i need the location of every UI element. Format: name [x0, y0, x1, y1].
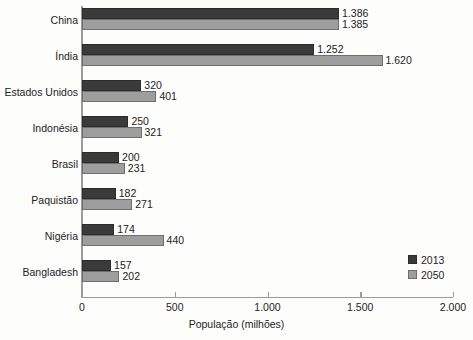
value-label-2050-nigéria: 440	[167, 234, 185, 246]
bar-2050-china	[82, 19, 339, 30]
x-tick-label-500: 500	[166, 301, 184, 313]
value-label-2050-estados-unidos: 401	[159, 90, 177, 102]
x-tick-2.000	[453, 292, 454, 297]
x-tick-label-1.000: 1.000	[254, 301, 280, 313]
value-label-2050-bangladesh: 202	[122, 270, 140, 282]
value-label-2013-índia: 1.252	[317, 43, 343, 55]
legend-item-2050: 2050	[408, 267, 444, 282]
value-label-2050-indonésia: 321	[145, 126, 163, 138]
bar-2013-brasil	[82, 152, 119, 163]
legend-swatch-2050	[408, 270, 417, 279]
bar-2050-bangladesh	[82, 271, 119, 282]
value-label-2050-china: 1.385	[342, 18, 368, 30]
bar-2050-paquistão	[82, 199, 132, 210]
category-label-wrap: Nigéria	[0, 230, 78, 242]
legend-label-2050: 2050	[421, 269, 444, 281]
bar-2050-estados-unidos	[82, 91, 156, 102]
bar-2013-paquistão	[82, 188, 116, 199]
x-tick-label-0: 0	[79, 301, 85, 313]
category-label-wrap: Brasil	[0, 158, 78, 170]
category-label-indonésia: Indonésia	[0, 122, 78, 134]
bar-2013-bangladesh	[82, 260, 111, 271]
legend-item-2013: 2013	[408, 252, 444, 267]
value-label-2050-índia: 1.620	[386, 54, 412, 66]
x-tick-label-2.000: 2.000	[440, 301, 466, 313]
value-label-2013-nigéria: 174	[117, 223, 135, 235]
category-label-wrap: Índia	[0, 50, 78, 62]
category-label-wrap: Indonésia	[0, 122, 78, 134]
x-tick-500	[175, 292, 176, 297]
bar-2013-índia	[82, 44, 314, 55]
category-label-wrap: China	[0, 14, 78, 26]
category-label-estados-unidos: Estados Unidos	[0, 86, 78, 98]
category-label-brasil: Brasil	[0, 158, 78, 170]
category-label-paquistão: Paquistão	[0, 194, 78, 206]
category-label-índia: Índia	[0, 50, 78, 62]
category-label-nigéria: Nigéria	[0, 230, 78, 242]
value-label-2050-brasil: 231	[128, 162, 146, 174]
value-label-2013-paquistão: 182	[119, 187, 137, 199]
x-axis-title: População (milhões)	[0, 318, 473, 330]
chart-legend: 2013 2050	[408, 252, 444, 282]
bar-2013-estados-unidos	[82, 80, 141, 91]
category-label-china: China	[0, 14, 78, 26]
bar-2050-índia	[82, 55, 383, 66]
x-tick-0	[82, 292, 83, 297]
bar-2050-nigéria	[82, 235, 164, 246]
category-label-wrap: Bangladesh	[0, 266, 78, 278]
category-label-wrap: Paquistão	[0, 194, 78, 206]
legend-label-2013: 2013	[421, 254, 444, 266]
x-tick-1.000	[268, 292, 269, 297]
x-tick-1.500	[360, 292, 361, 297]
x-tick-label-1.500: 1.500	[347, 301, 373, 313]
bar-2050-indonésia	[82, 127, 142, 138]
value-label-2050-paquistão: 271	[135, 198, 153, 210]
category-label-wrap: Estados Unidos	[0, 86, 78, 98]
bar-2013-indonésia	[82, 116, 128, 127]
population-bar-chart: 05001.0001.5002.000 ChinaÍndiaEstados Un…	[0, 0, 473, 340]
bar-2050-brasil	[82, 163, 125, 174]
bar-2013-nigéria	[82, 224, 114, 235]
category-label-bangladesh: Bangladesh	[0, 266, 78, 278]
legend-swatch-2013	[408, 255, 417, 264]
bar-2013-china	[82, 8, 339, 19]
